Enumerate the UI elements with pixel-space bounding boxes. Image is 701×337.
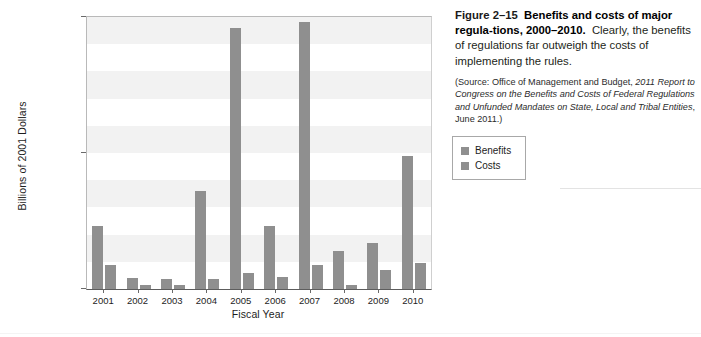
- bar-benefits-2004: [195, 191, 206, 289]
- bar-costs-2006: [277, 277, 288, 289]
- background-band: [87, 71, 431, 98]
- x-tick-mark: [206, 289, 207, 293]
- legend-label-costs: Costs: [475, 160, 501, 171]
- bar-benefits-2008: [333, 251, 344, 289]
- x-tick-mark: [413, 289, 414, 293]
- x-tick-mark: [172, 289, 173, 293]
- bar-benefits-2006: [264, 226, 275, 289]
- background-band: [87, 126, 431, 153]
- x-tick-mark: [344, 289, 345, 293]
- bar-benefits-2005: [230, 28, 241, 289]
- background-band: [87, 235, 431, 262]
- x-tick-mark: [378, 289, 379, 293]
- y-axis-label: Billions of 2001 Dollars: [16, 56, 28, 256]
- background-band: [87, 180, 431, 207]
- bar-benefits-2007: [299, 22, 310, 289]
- legend-item-costs: Costs: [461, 158, 511, 173]
- caption-source: (Source: Office of Management and Budget…: [455, 76, 695, 126]
- bar-costs-2005: [243, 273, 254, 289]
- figure-page: Billions of 2001 Dollars $0$50$100 20012…: [0, 0, 701, 337]
- legend-item-benefits: Benefits: [461, 143, 511, 158]
- x-tick-mark: [241, 289, 242, 293]
- x-tick-mark: [138, 289, 139, 293]
- background-band: [87, 17, 431, 44]
- x-tick-mark: [275, 289, 276, 293]
- bar-benefits-2010: [402, 156, 413, 289]
- x-axis-label: Fiscal Year: [86, 308, 430, 320]
- legend-swatch-costs: [461, 162, 469, 170]
- bar-benefits-2003: [161, 279, 172, 289]
- chart-legend: Benefits Costs: [452, 136, 526, 180]
- scan-artifact-line-bottom: [0, 333, 701, 334]
- bar-benefits-2009: [367, 243, 378, 289]
- bar-costs-2008: [346, 285, 357, 289]
- caption-source-prefix: (Source: Office of Management and Budget…: [455, 77, 635, 87]
- bar-costs-2010: [415, 263, 426, 289]
- legend-swatch-benefits: [461, 147, 469, 155]
- legend-label-benefits: Benefits: [475, 145, 511, 156]
- caption-main-text: Figure 2–15 Benefits and costs of major …: [455, 8, 695, 69]
- bar-costs-2002: [140, 285, 151, 289]
- caption-figure-number: Figure 2–15: [455, 9, 518, 21]
- figure-caption: Figure 2–15 Benefits and costs of major …: [455, 8, 695, 125]
- plot-area: [86, 16, 432, 290]
- chart-panel: Billions of 2001 Dollars $0$50$100 20012…: [0, 0, 445, 337]
- x-tick-mark: [103, 289, 104, 293]
- bar-costs-2009: [380, 270, 391, 289]
- x-tick-2010: 2010: [393, 295, 433, 306]
- bar-costs-2004: [208, 279, 219, 289]
- bar-costs-2007: [312, 265, 323, 289]
- bar-benefits-2002: [127, 278, 138, 289]
- x-tick-mark: [310, 289, 311, 293]
- bar-costs-2001: [105, 265, 116, 289]
- bar-benefits-2001: [92, 226, 103, 289]
- scan-artifact-line: [560, 188, 701, 189]
- bar-costs-2003: [174, 285, 185, 289]
